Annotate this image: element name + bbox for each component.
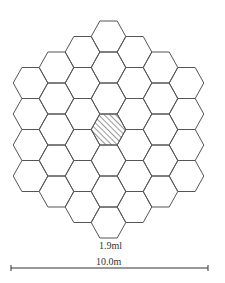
hex-cell [39, 176, 74, 207]
hex-cell [117, 161, 152, 192]
hex-cell [13, 68, 48, 99]
hex-cell [117, 68, 152, 99]
scale-label: 10.0m [96, 256, 121, 267]
highlighted-hex-cell [91, 114, 126, 145]
hex-cell [39, 83, 74, 114]
hex-cell [13, 130, 48, 161]
hex-cell [143, 114, 178, 145]
hex-cell [91, 207, 126, 238]
hex-cell [65, 161, 100, 192]
hex-cell [39, 114, 74, 145]
hex-cell [65, 37, 100, 68]
hex-cell [39, 52, 74, 83]
hex-cell [143, 176, 178, 207]
hex-cell [91, 52, 126, 83]
hex-cell [39, 145, 74, 176]
hex-cell [169, 130, 204, 161]
hex-cell [91, 21, 126, 52]
hex-cell [169, 99, 204, 130]
hex-cell [91, 83, 126, 114]
cell-size-label: 1.9ml [99, 240, 122, 251]
hex-cell [65, 192, 100, 223]
hex-cell [117, 37, 152, 68]
hex-cell [143, 83, 178, 114]
hex-cell [91, 145, 126, 176]
hex-cell [169, 68, 204, 99]
hex-cell [169, 161, 204, 192]
hex-cell [13, 99, 48, 130]
hex-cell [65, 68, 100, 99]
hex-cell [13, 161, 48, 192]
hex-cell [143, 52, 178, 83]
hex-cell [91, 176, 126, 207]
hex-cell [117, 192, 152, 223]
hex-cell [143, 145, 178, 176]
